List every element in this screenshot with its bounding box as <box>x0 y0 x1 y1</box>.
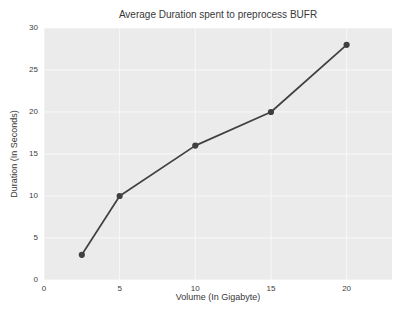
data-line <box>82 45 347 255</box>
plot-area <box>44 28 392 280</box>
data-point <box>344 42 350 48</box>
y-tick-label: 25 <box>0 65 38 75</box>
y-tick-label: 5 <box>0 233 38 243</box>
chart-title: Average Duration spent to preprocess BUF… <box>44 9 392 20</box>
data-point <box>79 252 85 258</box>
data-point <box>192 143 198 149</box>
y-tick-label: 30 <box>0 23 38 33</box>
y-tick-label: 20 <box>0 107 38 117</box>
data-point <box>268 109 274 115</box>
x-axis-label: Volume (In Gigabyte) <box>44 292 392 302</box>
data-point <box>117 193 123 199</box>
y-tick-label: 10 <box>0 191 38 201</box>
y-tick-label: 15 <box>0 149 38 159</box>
chart-figure: Average Duration spent to preprocess BUF… <box>0 0 411 325</box>
line-chart-canvas <box>44 28 392 280</box>
